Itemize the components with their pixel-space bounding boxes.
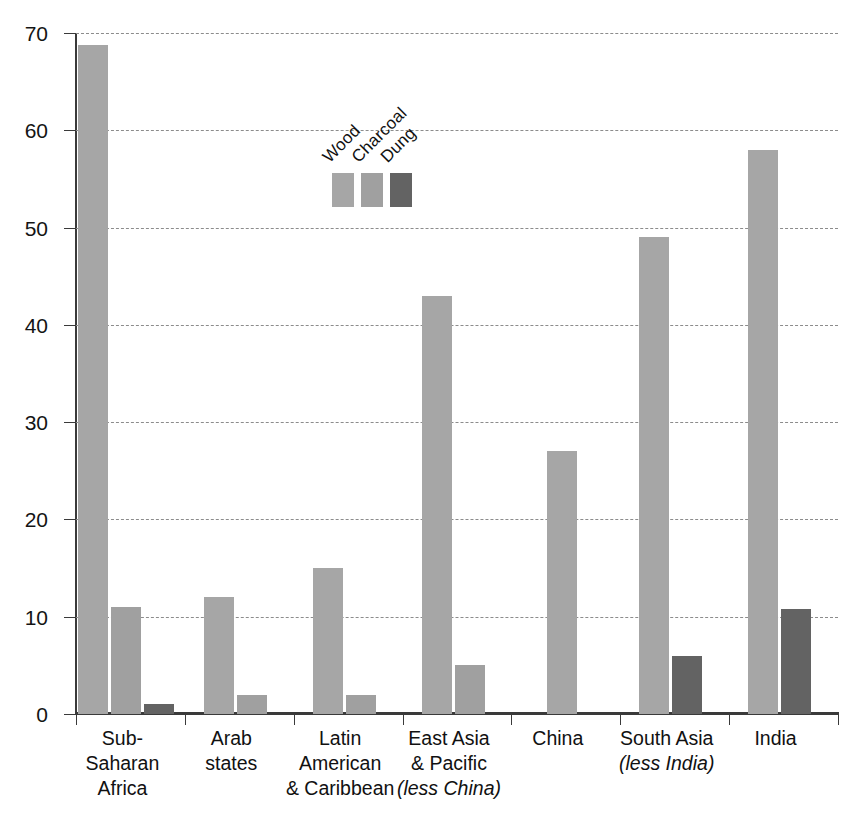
x-axis-category-label-line: India (721, 726, 830, 751)
bar (672, 656, 702, 714)
bar (639, 237, 669, 714)
bar (313, 568, 343, 714)
y-axis-tick-label: 0 (36, 703, 48, 727)
x-axis-category-label: East Asia& Pacific(less China) (395, 726, 504, 801)
x-axis-separator (620, 714, 621, 725)
x-axis-separator (185, 714, 186, 725)
y-axis-tick-label: 40 (25, 314, 48, 338)
x-axis-separator (511, 714, 512, 725)
x-axis-category-label-line: Arab (177, 726, 286, 751)
chart-figure: Percentage 010203040506070 WoodCharcoalD… (0, 0, 860, 824)
legend-swatch (332, 173, 354, 207)
y-axis-tick: 30 (64, 422, 76, 423)
y-axis-tick: 20 (64, 519, 76, 520)
x-axis-category-label-line: East Asia (395, 726, 504, 751)
x-axis-category-label: India (721, 726, 830, 751)
x-axis-category-label-line: (less China) (395, 776, 504, 801)
x-axis-category-label: Sub-SaharanAfrica (68, 726, 177, 801)
bar (346, 695, 376, 714)
x-axis-separator (76, 714, 77, 725)
legend-swatch (390, 173, 412, 207)
bar (78, 45, 108, 714)
y-axis-tick: 0 (64, 714, 76, 715)
bar (748, 150, 778, 714)
x-axis-category-label-line: Sub-Saharan (68, 726, 177, 776)
y-axis-tick: 10 (64, 617, 76, 618)
y-axis-tick: 70 (64, 33, 76, 34)
x-axis-category-label-line: (less India) (612, 751, 721, 776)
bar (111, 607, 141, 714)
bar (144, 704, 174, 714)
bar (781, 609, 811, 714)
x-axis-category-label-line: China (503, 726, 612, 751)
x-axis-category-label: South Asia(less India) (612, 726, 721, 776)
bar (237, 695, 267, 714)
bar (204, 597, 234, 714)
y-axis-tick-label: 50 (25, 217, 48, 241)
y-axis-tick: 50 (64, 228, 76, 229)
y-axis-tick-label: 60 (25, 119, 48, 143)
legend-swatch (361, 173, 383, 207)
y-axis-tick-label: 10 (25, 606, 48, 630)
bar (455, 665, 485, 714)
x-axis-category-label-line: states (177, 751, 286, 776)
y-axis-line (75, 33, 77, 714)
x-axis-separator (729, 714, 730, 725)
bar (547, 451, 577, 714)
y-axis-tick: 40 (64, 325, 76, 326)
x-axis-separator (838, 714, 839, 725)
y-axis-tick-label: 30 (25, 411, 48, 435)
x-axis-category-label: Latin American& Caribbean (286, 726, 395, 801)
bar (422, 296, 452, 714)
y-axis-tick: 60 (64, 130, 76, 131)
y-axis-tick-label: 20 (25, 508, 48, 532)
plot-area: 010203040506070 WoodCharcoalDung (76, 33, 838, 714)
x-axis-category-label-line: & Pacific (395, 751, 504, 776)
x-axis-category-label-line: Africa (68, 776, 177, 801)
gridline (76, 130, 838, 131)
x-axis-separator (294, 714, 295, 725)
gridline (76, 617, 838, 618)
x-axis-category-label-line: Latin American (286, 726, 395, 776)
x-axis-separator (403, 714, 404, 725)
x-axis-category-label-line: South Asia (612, 726, 721, 751)
x-axis-category-label: Arabstates (177, 726, 286, 776)
gridline (76, 33, 838, 34)
y-axis-tick-label: 70 (25, 22, 48, 46)
gridline (76, 325, 838, 326)
gridline (76, 519, 838, 520)
gridline (76, 228, 838, 229)
gridline (76, 422, 838, 423)
gridline (76, 714, 838, 715)
x-axis-category-label: China (503, 726, 612, 751)
x-axis-category-label-line: & Caribbean (286, 776, 395, 801)
